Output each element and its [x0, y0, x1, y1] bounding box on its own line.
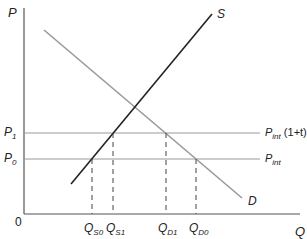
p0-label: P0	[4, 152, 16, 167]
demand-curve	[44, 30, 242, 198]
p1-label: P1	[4, 126, 16, 141]
supply-label: S	[217, 8, 225, 20]
q-d1-label: QD1	[158, 222, 178, 237]
p-int-tariff-label: Pint (1+t)	[265, 127, 307, 141]
q-s1-sub: S1	[115, 228, 125, 237]
diagram-canvas	[0, 0, 307, 239]
q-d0-sub: D0	[198, 228, 208, 237]
q-d1-sub: D1	[167, 228, 177, 237]
q-s1-label: QS1	[106, 222, 125, 237]
q-s0-main: Q	[84, 221, 93, 235]
p-int-tariff-suffix: (1+t)	[281, 126, 307, 138]
q-d0-main: Q	[189, 221, 198, 235]
q-s0-sub: S0	[93, 228, 103, 237]
x-axis-label: Q	[295, 225, 305, 238]
q-s1-main: Q	[106, 221, 115, 235]
p0-main: P	[4, 151, 12, 165]
q-d1-main: Q	[158, 221, 167, 235]
p1-main: P	[4, 125, 12, 139]
p-int-label: Pint	[265, 153, 281, 167]
p0-sub: 0	[12, 158, 16, 167]
p-int-tariff-sub: int	[272, 132, 280, 141]
q-d0-label: QD0	[189, 222, 209, 237]
y-axis-label: P	[8, 6, 17, 19]
origin-label: 0	[15, 216, 22, 228]
p-int-sub: int	[272, 158, 280, 167]
q-s0-label: QS0	[84, 222, 103, 237]
p1-sub: 1	[12, 132, 16, 141]
demand-label: D	[248, 195, 257, 207]
